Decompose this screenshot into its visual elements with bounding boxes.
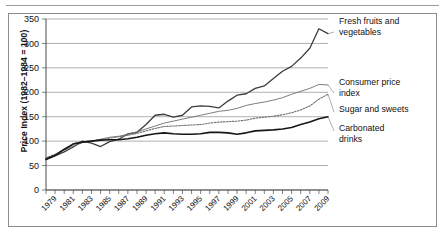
x-tick-label: 1979 — [40, 194, 59, 213]
annotation-leader-lines — [328, 32, 334, 131]
series-label-carbonated-drinks: Carbonated — [339, 123, 385, 133]
series-label-consumer-price-index: index — [339, 88, 360, 98]
x-tick-label: 1997 — [203, 194, 222, 213]
x-tick-label: 1987 — [112, 194, 131, 213]
leader-line-fresh-fruits-and-vegetables — [328, 32, 334, 34]
x-tick-label: 1993 — [167, 194, 186, 213]
x-tick-label: 2005 — [276, 194, 295, 213]
x-tick-label: 1983 — [76, 194, 95, 213]
line-chart-plot: 050100150200250300350 197919811983198519… — [0, 0, 445, 240]
gridlines-group — [46, 19, 328, 190]
series-label-sugar-and-sweets: Sugar and sweets — [339, 104, 409, 114]
series-line-consumer-price-index — [46, 84, 328, 158]
series-label-fresh-fruits-and-vegetables: Fresh fruits and — [339, 16, 400, 26]
series-line-carbonated-drinks — [46, 117, 328, 160]
leader-line-sugar-and-sweets — [328, 94, 334, 112]
x-tick-label: 1985 — [94, 194, 113, 213]
x-tick-label: 1999 — [221, 194, 240, 213]
x-tick-label: 1991 — [149, 194, 168, 213]
series-annotations: Fresh fruits andvegetablesConsumer price… — [339, 16, 409, 144]
y-tick-label: 350 — [24, 14, 39, 24]
leader-line-consumer-price-index — [328, 85, 334, 93]
y-axis-ticks: 050100150200250300350 — [24, 14, 328, 195]
data-series-group — [46, 29, 328, 160]
y-tick-label: 250 — [24, 63, 39, 73]
y-tick-label: 300 — [24, 39, 39, 49]
y-tick-label: 150 — [24, 112, 39, 122]
series-line-fresh-fruits-and-vegetables — [46, 29, 328, 160]
series-label-fresh-fruits-and-vegetables: vegetables — [339, 27, 382, 37]
x-tick-label: 1989 — [131, 194, 150, 213]
x-tick-label: 1981 — [58, 194, 77, 213]
y-tick-label: 0 — [34, 185, 39, 195]
x-axis-ticks: 1979198119831985198719891991199319951997… — [40, 190, 332, 213]
y-tick-label: 200 — [24, 87, 39, 97]
series-line-sugar-and-sweets — [46, 94, 328, 158]
x-tick-label: 2003 — [258, 194, 277, 213]
x-tick-label: 1995 — [185, 194, 204, 213]
x-tick-label: 2001 — [240, 194, 259, 213]
y-tick-label: 100 — [24, 136, 39, 146]
leader-line-carbonated-drinks — [328, 117, 334, 131]
series-label-carbonated-drinks: drinks — [339, 134, 363, 144]
series-label-consumer-price-index: Consumer price — [339, 77, 400, 87]
x-tick-label: 2007 — [294, 194, 313, 213]
chart-figure: Price Index (1982–1984 = 100) 0501001502… — [0, 0, 445, 240]
x-tick-label: 2009 — [312, 194, 331, 213]
y-tick-label: 50 — [29, 161, 39, 171]
